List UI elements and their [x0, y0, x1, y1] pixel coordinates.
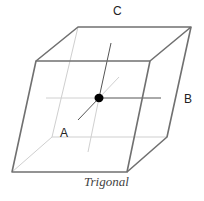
axis-label-b: B: [184, 92, 192, 106]
axis-label-c: C: [113, 4, 122, 18]
axis-label-a: A: [60, 126, 68, 140]
trigonal-cell-diagram: [0, 0, 204, 201]
hidden-edges: [12, 27, 167, 172]
caption: Trigonal: [84, 174, 129, 190]
center-dot: [95, 94, 104, 102]
